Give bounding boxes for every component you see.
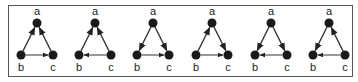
edge-a-to-b (315, 27, 327, 51)
node-label-b: b (193, 61, 199, 73)
node-label-c: c (166, 61, 172, 73)
edge-a-to-c (214, 27, 226, 51)
node-b (309, 51, 318, 60)
node-label-c: c (284, 61, 290, 73)
node-label-a: a (150, 5, 157, 17)
node-a (91, 19, 100, 28)
node-label-a: a (268, 5, 275, 17)
node-label-a: a (92, 5, 99, 17)
node-a (208, 19, 217, 28)
node-b (17, 51, 26, 60)
node-c (165, 51, 174, 60)
node-a (149, 19, 158, 28)
node-c (107, 51, 116, 60)
edge-a-to-c (273, 27, 285, 51)
node-label-a: a (326, 5, 333, 17)
graph-3: abc (133, 5, 174, 73)
graph-2: abc (75, 5, 116, 73)
node-label-b: b (310, 61, 316, 73)
edge-a-to-b (139, 27, 151, 51)
node-b (133, 51, 142, 60)
node-a (267, 19, 276, 28)
edge-a-to-c (155, 27, 167, 51)
graph-4: abc (192, 5, 233, 73)
graph-5: abc (251, 5, 292, 73)
node-a (325, 19, 334, 28)
graph-6: abc (309, 5, 350, 73)
node-label-b: b (18, 61, 24, 73)
node-label-b: b (134, 61, 140, 73)
node-c (49, 51, 58, 60)
node-label-a: a (209, 5, 216, 17)
edge-a-to-b (257, 27, 269, 51)
graph-diagram: abcabcabcabcabcabc (0, 0, 358, 82)
node-b (75, 51, 84, 60)
node-label-b: b (252, 61, 258, 73)
node-b (192, 51, 201, 60)
node-label-a: a (34, 5, 41, 17)
node-label-c: c (225, 61, 231, 73)
edge-b-to-a (81, 27, 93, 51)
node-label-c: c (342, 61, 348, 73)
node-a (33, 19, 42, 28)
edge-b-to-a (198, 27, 210, 51)
node-label-b: b (76, 61, 82, 73)
edge-c-to-a (331, 27, 343, 51)
node-b (251, 51, 260, 60)
edge-c-to-a (97, 27, 109, 51)
node-label-c: c (50, 61, 56, 73)
node-label-c: c (108, 61, 114, 73)
node-c (283, 51, 292, 60)
node-c (341, 51, 350, 60)
node-c (224, 51, 233, 60)
edge-b-to-a (23, 27, 35, 51)
edge-c-to-a (39, 27, 51, 51)
graph-1: abc (17, 5, 58, 73)
